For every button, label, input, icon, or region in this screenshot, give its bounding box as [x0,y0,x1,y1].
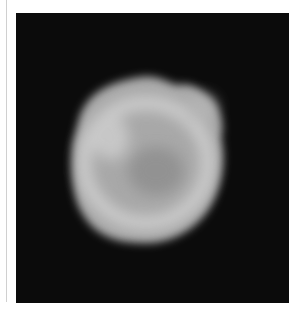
celestial-body-icon [16,13,289,303]
left-margin-line [6,0,7,302]
astronomical-image [16,13,289,303]
